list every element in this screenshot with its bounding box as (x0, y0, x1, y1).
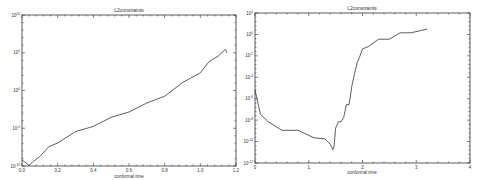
x-tick-label: 1.0 (197, 168, 204, 173)
y-tick-label: 1010 (11, 12, 20, 18)
figure: L2constraints 0.00.20.40.60.81.01.210-10… (0, 0, 478, 180)
left-x-axis-label: conformal time (114, 174, 144, 179)
left-data-line (22, 49, 227, 165)
left-chart-title: L2constraints (114, 7, 144, 13)
x-tick-label: 1 (307, 165, 310, 170)
y-tick-label: 102 (246, 10, 253, 16)
y-tick-label: 10-10 (243, 138, 253, 144)
left-axis-ticks: 0.00.20.40.60.81.01.210-1010-51001051010 (10, 12, 239, 174)
right-chart-title: L2constraints (347, 5, 377, 11)
x-tick-label: 0.0 (19, 168, 26, 173)
left-chart: L2constraints 0.00.20.40.60.81.01.210-10… (10, 7, 239, 179)
y-tick-label: 105 (13, 49, 20, 55)
x-tick-label: 0.4 (90, 168, 97, 173)
right-x-axis-label: conformal time (347, 170, 377, 175)
right-plot-frame (255, 13, 470, 163)
x-tick-label: 0 (254, 165, 257, 170)
y-tick-label: 10-12 (243, 160, 253, 166)
y-tick-label: 10-4 (245, 74, 253, 80)
right-axis-ticks: 0123410-1210-1010-810-610-410-2100102 (243, 10, 471, 171)
x-tick-label: 4 (469, 165, 472, 170)
y-tick-label: 100 (246, 31, 253, 37)
x-tick-label: 3 (415, 165, 418, 170)
y-tick-label: 100 (13, 87, 20, 93)
x-tick-label: 0.2 (55, 168, 62, 173)
y-tick-label: 10-6 (245, 95, 253, 101)
x-tick-label: 1.2 (233, 168, 240, 173)
y-tick-label: 10-8 (245, 117, 253, 123)
x-tick-label: 0.6 (126, 168, 133, 173)
y-tick-label: 10-2 (245, 52, 253, 58)
y-tick-label: 10-5 (12, 125, 20, 131)
right-data-line (255, 29, 427, 150)
x-tick-label: 0.8 (162, 168, 169, 173)
right-chart: L2constraints 0123410-1210-1010-810-610-… (243, 5, 471, 175)
left-plot-frame (22, 15, 236, 166)
